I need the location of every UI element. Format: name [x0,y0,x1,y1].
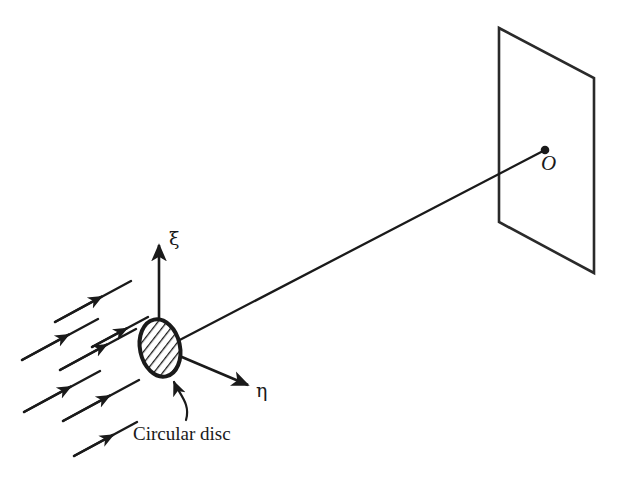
diagram-canvas: ξ η O Circular disc [0,0,622,481]
incident-ray [60,329,136,370]
incident-ray [55,281,131,322]
diagram-vector-layer [0,0,622,481]
xi-axis-label: ξ [169,229,179,248]
incident-ray [74,422,137,456]
origin-point-label: O [541,153,556,174]
axis-line-to-origin [172,150,545,344]
circular-disc-caption: Circular disc [133,424,231,443]
disc-caption-leader [174,382,187,420]
incident-plane-wave-rays [22,281,148,456]
eta-axis-label: η [256,381,267,400]
incident-ray [22,319,98,360]
